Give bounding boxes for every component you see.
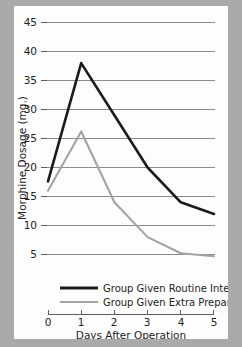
- line-chart: 45 40 35 30 25 20 15 10 5 Morphine Dosag…: [14, 6, 228, 339]
- legend-label-routine-interview: Group Given Routine Interview: [103, 283, 228, 294]
- x-axis-title: Days After Operation: [76, 329, 186, 339]
- x-tick-labels: 0 1 2 3 4 5: [45, 316, 218, 328]
- y-tick-label-5: 5: [30, 248, 37, 260]
- y-tick-label-45: 45: [24, 16, 37, 28]
- figure-outer-frame: 45 40 35 30 25 20 15 10 5 Morphine Dosag…: [0, 0, 242, 347]
- x-tick-label-2: 2: [111, 316, 118, 328]
- x-tick-label-5: 5: [211, 316, 218, 328]
- x-tick-label-0: 0: [45, 316, 52, 328]
- series-group: [48, 63, 214, 256]
- x-tick-label-4: 4: [178, 316, 185, 328]
- x-tick-label-3: 3: [144, 316, 151, 328]
- series-line-group-given-extra-preparation: [48, 132, 214, 257]
- y-axis-title: Morphine Dosage (mg.): [16, 96, 28, 220]
- legend-label-extra-preparation: Group Given Extra Preparation: [103, 297, 228, 308]
- figure-card: 45 40 35 30 25 20 15 10 5 Morphine Dosag…: [14, 6, 228, 339]
- x-axis: [48, 310, 214, 315]
- x-tick-label-1: 1: [78, 316, 85, 328]
- y-tick-marks: [41, 23, 47, 255]
- y-tick-label-40: 40: [24, 45, 37, 57]
- legend: Group Given Routine Interview Group Give…: [60, 283, 228, 308]
- y-tick-label-35: 35: [24, 74, 37, 86]
